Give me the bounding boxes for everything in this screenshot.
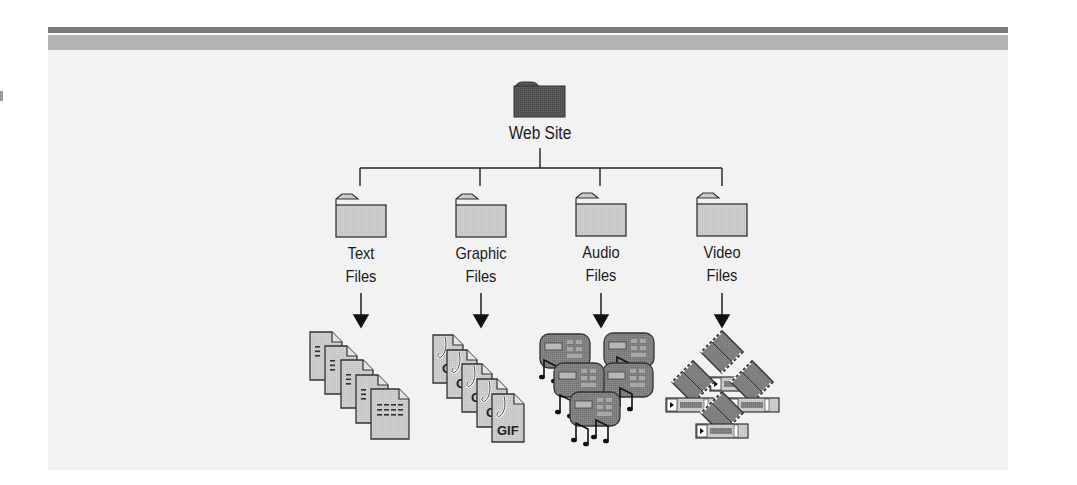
- video-filmstrip-cluster-icon: [666, 331, 779, 438]
- gif-file-stack-icon: GIF: [433, 335, 524, 442]
- audio-player-cluster-icon: [539, 333, 654, 446]
- child-label-text-line2: Files: [327, 267, 396, 287]
- text-document-stack-icon: [310, 332, 409, 439]
- child-label-video-line1: Video: [688, 243, 757, 263]
- gif-badge: GIF: [497, 423, 519, 438]
- child-label-graphic-line1: Graphic: [447, 244, 516, 264]
- child-label-audio-line2: Files: [567, 266, 636, 286]
- down-arrow-icon: [354, 293, 729, 327]
- child-label-audio-line1: Audio: [567, 243, 636, 263]
- child-label-text-line1: Text: [327, 244, 396, 264]
- folder-icon: [456, 194, 506, 237]
- tree-connectors: [360, 148, 722, 186]
- child-label-video-line2: Files: [688, 266, 757, 286]
- folder-icon: [697, 193, 747, 236]
- root-label-web-site: Web Site: [497, 123, 583, 143]
- folder-icon: [336, 194, 386, 237]
- folder-icon: [576, 193, 626, 236]
- site-structure-diagram: G: [0, 0, 1077, 485]
- folder-dark-icon: [514, 82, 565, 117]
- child-label-graphic-line2: Files: [447, 267, 516, 287]
